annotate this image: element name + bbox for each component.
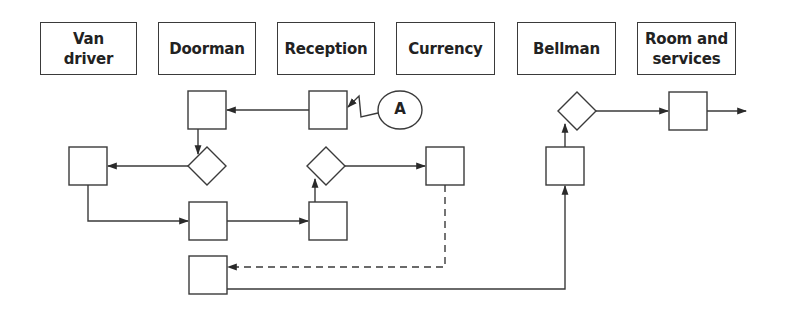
process-box-doorman-1 bbox=[188, 91, 226, 129]
decision-diamond-reception bbox=[307, 147, 345, 185]
decision-diamond-doorman bbox=[188, 147, 226, 185]
process-box-currency bbox=[426, 147, 464, 185]
flow-diagram bbox=[0, 0, 785, 318]
decision-diamond-bellman bbox=[558, 92, 596, 130]
connector-label-a: A bbox=[390, 100, 410, 118]
process-box-reception-1 bbox=[309, 91, 347, 129]
process-box-reception-2 bbox=[309, 202, 347, 240]
process-box-room bbox=[669, 92, 707, 130]
process-box-bellman bbox=[546, 147, 584, 185]
process-box-van-driver bbox=[69, 147, 107, 185]
process-box-doorman-3 bbox=[189, 256, 227, 294]
zigzag-connector bbox=[348, 96, 378, 117]
process-box-doorman-2 bbox=[189, 202, 227, 240]
